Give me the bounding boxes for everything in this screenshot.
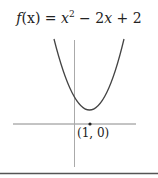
chart: f(x) = x2 − 2x + 2 (1, 0)	[0, 0, 158, 178]
parabola-curve	[54, 39, 124, 110]
point-label: (1, 0)	[77, 126, 109, 140]
plot-area	[0, 0, 158, 178]
